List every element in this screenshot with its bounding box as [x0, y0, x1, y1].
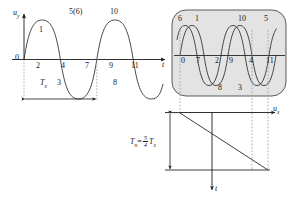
right-panel-axis-label-0: 0	[181, 57, 185, 65]
left-plot-axis-label-2: 2	[36, 62, 40, 70]
left-plot-axis-label-7: 7	[85, 62, 89, 70]
left-plot-peak-label-1: 1	[39, 26, 43, 34]
bottom-plot-period-bracket	[166, 113, 181, 170]
bottom-plot-period-formula: Tn=54Tx	[130, 135, 156, 150]
bottom-plot-axes	[165, 113, 275, 191]
left-plot-peak-label-10: 10	[110, 8, 118, 16]
right-panel-top-label-1: 1	[195, 15, 199, 23]
left-plot-axis-label-11: 11	[131, 62, 139, 70]
right-panel-bottom-label-8: 8	[218, 84, 222, 92]
left-plot-axis-label-4: 4	[61, 62, 65, 70]
bottom-plot-t-axis-label: t	[215, 185, 217, 193]
right-panel-top-label-10: 10	[238, 15, 246, 23]
right-panel-axis-label-4: 4	[249, 57, 253, 65]
left-plot-trough-label-8: 8	[113, 79, 117, 87]
right-panel-axis-label-11: 11	[266, 57, 274, 65]
right-panel-top-label-6: 6	[178, 15, 182, 23]
figure-vector-layer	[0, 0, 294, 210]
right-panel-top-label-5: 5	[264, 15, 268, 23]
right-panel-box	[172, 10, 286, 96]
figure-root: uy t 0 1 5(6) 10 3 8 2 4 7 9 11 Tx 6 1 1…	[0, 0, 294, 210]
left-plot-y-axis-label: uy	[13, 9, 19, 19]
right-panel-axis-label-2: 2	[215, 57, 219, 65]
left-plot-trough-label-3: 3	[57, 79, 61, 87]
bottom-plot-x-axis-label: ux	[273, 105, 279, 115]
left-plot-peak-label-5-6: 5(6)	[69, 8, 82, 16]
left-plot-origin-label: 0	[15, 54, 19, 62]
right-panel-axis-label-7: 7	[196, 57, 200, 65]
left-plot-axis-label-9: 9	[109, 62, 113, 70]
right-panel-axis-label-9: 9	[229, 57, 233, 65]
left-plot-axes	[12, 14, 165, 60]
right-panel-bottom-label-3: 3	[238, 84, 242, 92]
bottom-plot-ramp	[180, 113, 268, 170]
left-plot-x-axis-label: t	[162, 61, 164, 69]
left-plot-period-label: Tx	[40, 79, 47, 89]
